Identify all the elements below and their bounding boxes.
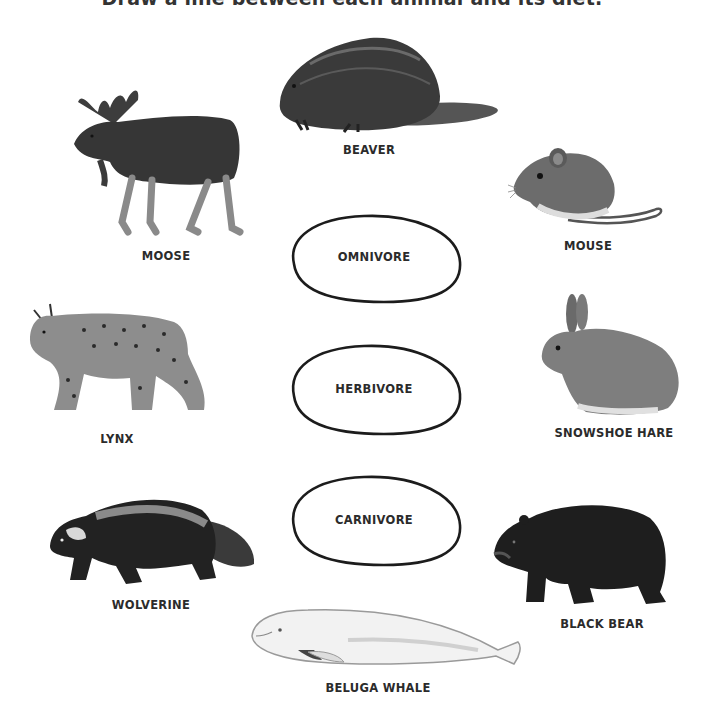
animal-mouse[interactable]: [508, 144, 668, 236]
animal-label-snowshoe-hare: SNOWSHOE HARE: [554, 426, 673, 440]
animal-label-lynx: LYNX: [100, 432, 134, 446]
animal-wolverine[interactable]: [46, 480, 258, 590]
beaver-icon: [270, 34, 502, 134]
animal-lynx[interactable]: [24, 300, 214, 420]
diet-zone-carnivore[interactable]: CARNIVORE: [284, 473, 464, 569]
lynx-icon: [24, 300, 214, 420]
diet-label-omnivore: OMNIVORE: [284, 250, 464, 264]
diet-zone-herbivore[interactable]: HERBIVORE: [284, 342, 464, 438]
animal-label-beluga-whale: BELUGA WHALE: [325, 681, 430, 695]
animal-black-bear[interactable]: [490, 492, 670, 607]
animal-moose[interactable]: [70, 82, 245, 237]
worksheet-title: Draw a line between each animal and its …: [0, 0, 704, 9]
black-bear-icon: [490, 492, 670, 607]
animal-label-mouse: MOUSE: [564, 239, 612, 253]
mouse-icon: [508, 144, 668, 236]
animal-beaver[interactable]: [270, 34, 502, 134]
diet-label-carnivore: CARNIVORE: [284, 513, 464, 527]
animal-beluga-whale[interactable]: [248, 604, 524, 670]
diet-zone-omnivore[interactable]: OMNIVORE: [284, 212, 464, 306]
diet-label-herbivore: HERBIVORE: [284, 382, 464, 396]
animal-label-black-bear: BLACK BEAR: [560, 617, 644, 631]
wolverine-icon: [46, 480, 258, 590]
animal-snowshoe-hare[interactable]: [538, 294, 683, 416]
beluga-whale-icon: [248, 604, 524, 670]
animal-label-wolverine: WOLVERINE: [112, 598, 190, 612]
animal-label-beaver: BEAVER: [343, 143, 395, 157]
animal-label-moose: MOOSE: [142, 249, 191, 263]
snowshoe-hare-icon: [538, 294, 683, 416]
moose-icon: [70, 82, 245, 237]
